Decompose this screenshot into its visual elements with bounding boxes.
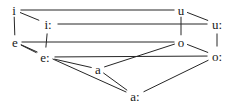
vowel-edge-u-to-u-long — [187, 12, 208, 20]
vowel-quadrilateral-diagram: ii:uu:ee:oo:aa: — [0, 0, 238, 108]
vowel-label-i: i — [12, 4, 16, 17]
vowel-label-o-long: o: — [212, 50, 222, 63]
vowel-edge-e-long-to-o-long — [55, 56, 208, 57]
vowel-edge-i-to-i-long — [20, 12, 39, 20]
vowel-label-i-long: i: — [44, 18, 51, 31]
vowel-label-e-long: e: — [40, 51, 49, 64]
vowel-edge-o-long-to-a-long — [144, 60, 209, 92]
vowel-label-a-long: a: — [130, 90, 139, 103]
vowel-edge-a-to-o — [104, 44, 175, 67]
vowel-edge-i-long-to-e-long — [46, 33, 47, 47]
vowel-label-e: e — [12, 36, 18, 49]
vowel-edge-i-to-e — [14, 17, 15, 36]
vowel-label-u: u — [178, 4, 185, 17]
vowel-label-a: a — [95, 63, 101, 76]
vowel-label-o: o — [178, 36, 185, 49]
vowel-label-u-long: u: — [212, 18, 222, 31]
vowel-edge-o-to-o-long — [187, 44, 208, 52]
vowel-edge-a-to-a-long — [103, 73, 127, 91]
vowel-edge-e-long-to-a — [54, 59, 91, 67]
vowel-edges-layer — [0, 0, 238, 108]
